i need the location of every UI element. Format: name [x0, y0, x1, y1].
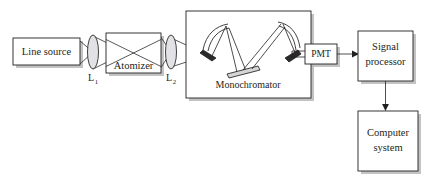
spectrometer-diagram: Line source L 1 Atomizer L 2	[0, 0, 435, 185]
monochromator-label: Monochromator	[216, 79, 282, 90]
lens-2-component[interactable]: L 2	[166, 35, 177, 85]
monochromator-component[interactable]: Monochromator	[186, 11, 311, 98]
atomizer-component[interactable]: Atomizer	[106, 33, 161, 73]
signal-processor-component[interactable]: Signal processor	[358, 31, 413, 81]
lens-1-label: L	[88, 72, 94, 83]
computer-system-label-line1: Computer	[367, 127, 409, 138]
computer-system-fill	[358, 111, 418, 171]
pmt-component[interactable]: PMT	[305, 44, 337, 64]
pmt-label: PMT	[311, 49, 331, 59]
line-source-label: Line source	[22, 46, 72, 57]
signal-processor-label-line1: Signal	[372, 41, 399, 52]
arrow-signal-processor-to-computer	[382, 81, 389, 111]
lens-1-component[interactable]: L 1	[88, 35, 99, 85]
arrow-head-computer	[382, 104, 389, 111]
lens-1-body	[88, 35, 99, 69]
schematic-canvas: Line source L 1 Atomizer L 2	[0, 0, 435, 185]
lens-2-body	[166, 35, 177, 69]
line-source-component[interactable]: Line source	[13, 38, 80, 65]
lens-2-subscript: 2	[173, 78, 177, 85]
atomizer-label: Atomizer	[114, 60, 154, 71]
lens-2-label: L	[166, 72, 172, 83]
computer-system-label-line2: system	[373, 142, 402, 153]
computer-system-component[interactable]: Computer system	[358, 111, 418, 171]
arrow-pmt-to-signal-processor	[337, 51, 359, 58]
lens-1-subscript: 1	[95, 78, 98, 85]
signal-processor-label-line2: processor	[365, 56, 406, 67]
